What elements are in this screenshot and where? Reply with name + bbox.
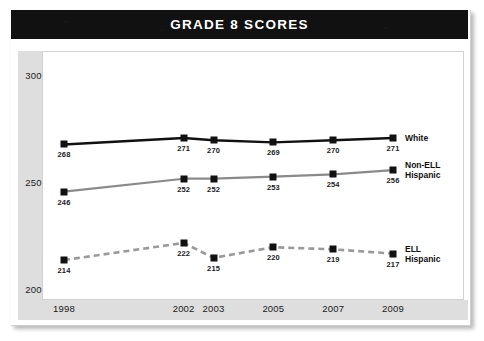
x-axis-tick-1998: 1998 [53,303,75,314]
data-label-non-ell-hispanic-1998: 246 [58,198,71,207]
chart-title-banner: GRADE 8 SCORES [11,10,468,39]
data-label-non-ell-hispanic-2005: 253 [267,183,280,192]
y-axis-tick-300: 300 [18,70,49,81]
data-label-ell-hispanic-1998: 214 [58,266,71,275]
x-axis-tick-2009: 2009 [382,303,404,314]
series-line-non-ell-hispanic [64,170,393,191]
series-legend-label-white: White [405,133,428,143]
data-point-ell-hispanic-2005 [270,244,277,251]
data-point-non-ell-hispanic-2002 [180,175,187,182]
x-axis-tick-2003: 2003 [203,303,225,314]
x-axis-tick-2002: 2002 [173,303,195,314]
data-label-white-2002: 271 [177,144,190,153]
data-label-ell-hispanic-2002: 222 [177,249,190,258]
y-axis-tick-250: 250 [18,177,49,188]
x-axis-tick-2007: 2007 [322,303,344,314]
data-label-ell-hispanic-2003: 215 [207,264,220,273]
data-label-white-1998: 268 [58,150,71,159]
data-label-ell-hispanic-2005: 220 [267,253,280,262]
data-point-white-2002 [180,135,187,142]
data-point-non-ell-hispanic-2009 [390,167,397,174]
data-point-white-1998 [61,141,68,148]
page-title: GRADE 8 SCORES [170,17,308,32]
chart-area: 2002503001998200220032005200720092682712… [11,39,468,325]
data-point-white-2003 [210,137,217,144]
data-label-ell-hispanic-2007: 219 [327,255,340,264]
data-label-non-ell-hispanic-2007: 254 [327,180,340,189]
figure-page: GRADE 8 SCORES 2002503001998200220032005… [0,0,484,341]
data-point-white-2005 [270,139,277,146]
x-axis-tick-2005: 2005 [262,303,284,314]
data-point-white-2009 [390,135,397,142]
series-line-white [64,138,393,144]
data-label-white-2003: 270 [207,146,220,155]
data-point-ell-hispanic-2007 [330,246,337,253]
data-label-white-2009: 271 [387,144,400,153]
data-point-non-ell-hispanic-1998 [61,188,68,195]
data-label-white-2005: 269 [267,148,280,157]
data-point-non-ell-hispanic-2003 [210,175,217,182]
data-point-ell-hispanic-2009 [390,250,397,257]
series-legend-label-non-ell-hispanic: Non-ELL Hispanic [405,160,440,180]
data-label-non-ell-hispanic-2009: 256 [387,176,400,185]
data-point-ell-hispanic-2003 [210,254,217,261]
data-point-ell-hispanic-2002 [180,239,187,246]
data-label-non-ell-hispanic-2002: 252 [177,185,190,194]
data-point-white-2007 [330,137,337,144]
chart-card: GRADE 8 SCORES 2002503001998200220032005… [11,10,471,326]
data-label-white-2007: 270 [327,146,340,155]
series-legend-label-ell-hispanic: ELL Hispanic [405,244,440,264]
plot-svg [11,39,468,325]
data-label-ell-hispanic-2009: 217 [387,260,400,269]
data-point-non-ell-hispanic-2007 [330,171,337,178]
series-line-ell-hispanic [64,243,393,260]
data-label-non-ell-hispanic-2003: 252 [207,185,220,194]
y-axis-tick-200: 200 [18,284,49,295]
data-point-ell-hispanic-1998 [61,257,68,264]
data-point-non-ell-hispanic-2005 [270,173,277,180]
